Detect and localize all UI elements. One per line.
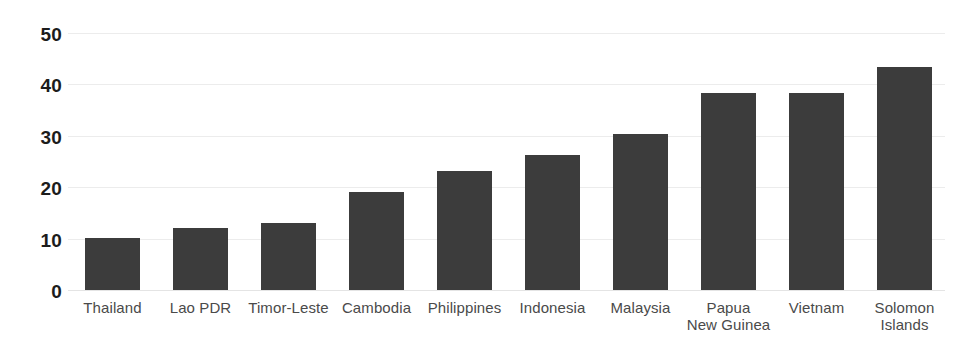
bar bbox=[613, 134, 668, 290]
y-tick-label-0: 0 bbox=[14, 282, 62, 301]
y-axis: 50 40 30 20 10 0 bbox=[10, 0, 62, 344]
gridline-0-baseline bbox=[68, 290, 945, 291]
bar bbox=[789, 93, 844, 290]
x-axis-label-line1: Solomon bbox=[875, 299, 935, 316]
x-axis-label: SolomonIslands bbox=[849, 299, 961, 333]
bar bbox=[349, 192, 404, 290]
bar-chart: 50 40 30 20 10 0 ThailandLao PDRTimor-Le… bbox=[0, 0, 961, 344]
y-tick-label-20: 20 bbox=[14, 179, 62, 198]
x-axis-label-line1: Papua bbox=[707, 299, 751, 316]
x-axis-label-line1: Cambodia bbox=[342, 299, 411, 316]
bar bbox=[525, 155, 580, 290]
bar bbox=[877, 67, 932, 290]
plot-area bbox=[68, 20, 945, 300]
bar bbox=[85, 238, 140, 290]
x-axis-label-line1: Philippines bbox=[428, 299, 502, 316]
x-axis-label-line2: New Guinea bbox=[673, 316, 785, 333]
bar bbox=[437, 171, 492, 290]
x-axis-label-line1: Thailand bbox=[83, 299, 141, 316]
gridline-50 bbox=[68, 33, 945, 34]
y-tick-label-30: 30 bbox=[14, 128, 62, 147]
bar bbox=[261, 223, 316, 290]
x-axis-label-line1: Lao PDR bbox=[170, 299, 232, 316]
gridline-40 bbox=[68, 84, 945, 85]
x-axis-label-line1: Indonesia bbox=[520, 299, 586, 316]
y-tick-label-10: 10 bbox=[14, 231, 62, 250]
x-axis-label-line2: Islands bbox=[849, 316, 961, 333]
y-tick-label-50: 50 bbox=[14, 25, 62, 44]
x-axis-label-line1: Malaysia bbox=[611, 299, 671, 316]
bar bbox=[173, 228, 228, 290]
y-tick-label-40: 40 bbox=[14, 76, 62, 95]
x-axis-label-line1: Vietnam bbox=[789, 299, 844, 316]
bar bbox=[701, 93, 756, 290]
x-axis-label-line1: Timor-Leste bbox=[248, 299, 329, 316]
